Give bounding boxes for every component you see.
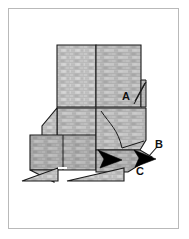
upper-left-block (57, 45, 96, 107)
structure-group (22, 45, 152, 182)
figure-illustration (0, 0, 189, 239)
annotation-label-c: C (136, 166, 144, 177)
annotation-label-a: A (122, 91, 130, 102)
figure-root: A B C (0, 0, 189, 239)
upper-right-block (96, 45, 141, 107)
annotation-label-b: B (155, 139, 163, 150)
